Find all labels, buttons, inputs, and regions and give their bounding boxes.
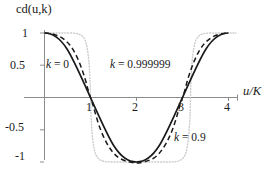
- equals-sign: =: [115, 58, 127, 70]
- k-value: 0: [63, 58, 69, 70]
- x-tick-label-1: 1: [86, 101, 92, 113]
- chart-figure: cd(u,k) u/K 1 0.5 -0.5 -1 1 2 3 4 k = 0 …: [0, 0, 280, 175]
- equals-sign: =: [179, 131, 191, 143]
- y-tick-label-1: 1: [22, 27, 28, 39]
- k-value: 0.9: [191, 131, 205, 143]
- x-axis-title: u/K: [243, 85, 261, 98]
- plot-canvas: [0, 0, 280, 175]
- x-tick-label-3: 3: [178, 101, 184, 113]
- k-value: 0.999999: [127, 58, 170, 70]
- y-tick-label-0-5: 0.5: [10, 59, 25, 71]
- x-tick-marks: [91, 98, 229, 102]
- series-annotation-k09: k = 0.9: [174, 132, 206, 144]
- x-tick-label-4: 4: [224, 101, 230, 113]
- y-axis-title: cd(u,k): [16, 3, 52, 16]
- series-annotation-k0: k = 0: [46, 59, 69, 71]
- equals-sign: =: [51, 58, 63, 70]
- y-tick-label-minus-1: -1: [15, 150, 25, 162]
- x-tick-label-2: 2: [132, 101, 138, 113]
- series-annotation-k0999999: k = 0.999999: [110, 59, 170, 71]
- y-tick-label-minus-0-5: -0.5: [5, 121, 24, 133]
